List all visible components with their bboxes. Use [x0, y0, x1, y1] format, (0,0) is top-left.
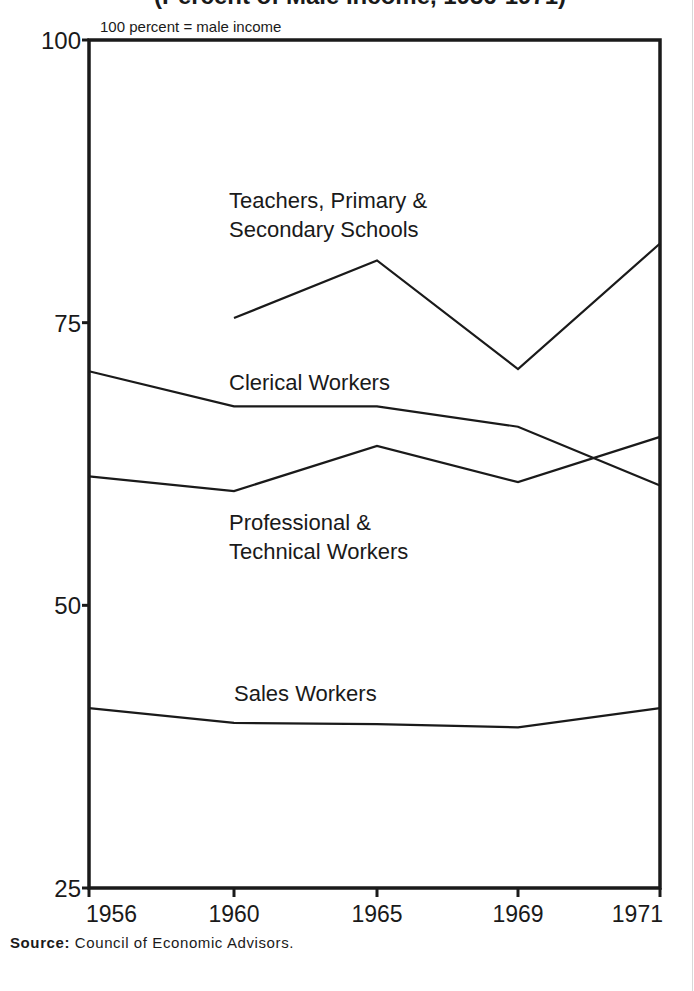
- series-label: Clerical Workers: [229, 370, 390, 395]
- source-label: Source:: [10, 934, 70, 951]
- page-edge: [692, 0, 693, 991]
- series-line: [234, 244, 660, 370]
- x-axis: 19561960196519691971: [86, 888, 663, 927]
- x-tick-label: 1969: [492, 901, 543, 927]
- series-label: Professional &: [229, 510, 371, 535]
- series-lines: [89, 244, 660, 728]
- series-line: [89, 708, 660, 727]
- unit-note: 100 percent = male income: [100, 18, 281, 35]
- y-tick-label: 75: [54, 310, 81, 337]
- series-labels: Teachers, Primary &Secondary SchoolsCler…: [229, 188, 427, 706]
- x-tick-label: 1956: [86, 901, 137, 927]
- y-tick-label: 25: [54, 875, 81, 902]
- x-tick-label: 1965: [351, 901, 402, 927]
- series-label: Teachers, Primary &: [229, 188, 427, 213]
- x-tick-label: 1971: [612, 901, 663, 927]
- series-label: Secondary Schools: [229, 217, 419, 242]
- y-tick-label: 50: [54, 592, 81, 619]
- y-axis: 255075100: [41, 27, 89, 902]
- x-tick-label: 1960: [208, 901, 259, 927]
- line-chart: 100 percent = male income 255075100 1956…: [0, 0, 694, 991]
- series-label: Sales Workers: [234, 681, 377, 706]
- series-label: Technical Workers: [229, 539, 408, 564]
- source-text: Council of Economic Advisors.: [75, 934, 294, 951]
- source-note: Source: Council of Economic Advisors.: [10, 934, 294, 951]
- y-tick-label: 100: [41, 27, 81, 54]
- series-line: [89, 437, 660, 491]
